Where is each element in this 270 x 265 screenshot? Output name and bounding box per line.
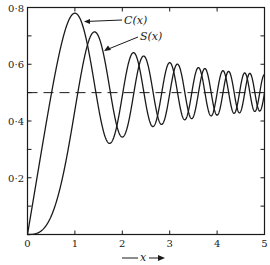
y-tick-label: 0·8 — [8, 3, 24, 14]
y-tick-label: 0·2 — [8, 173, 24, 184]
x-tick-label: 4 — [214, 238, 220, 249]
x-tick-label: 3 — [167, 238, 173, 249]
x-tick-label: 0 — [24, 238, 30, 249]
s-label-leader — [106, 37, 138, 50]
axis-tick-labels: 0123450·20·40·60·8 — [8, 3, 268, 250]
c-label-leader — [85, 20, 122, 22]
x-label-arrowhead — [158, 255, 165, 261]
x-tick-label: 1 — [72, 238, 78, 249]
c-leader-arrowhead — [84, 19, 90, 24]
s-curve-label: S(x) — [140, 30, 162, 43]
curve-s-of-x — [28, 32, 265, 235]
y-tick-label: 0·6 — [8, 59, 24, 70]
x-tick-label: 2 — [119, 238, 125, 249]
curve-c-of-x — [28, 13, 265, 234]
y-tick-label: 0·4 — [8, 116, 24, 127]
x-tick-label: 5 — [261, 238, 267, 249]
fresnel-chart: 0123450·20·40·60·8 C(x) S(x) x — [0, 0, 270, 265]
c-curve-label: C(x) — [124, 14, 147, 27]
x-axis-label: x — [140, 251, 147, 264]
